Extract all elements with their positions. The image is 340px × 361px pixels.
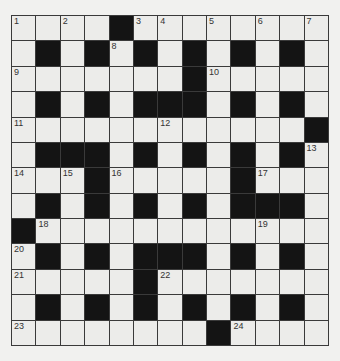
crossword-cell[interactable] [305,321,328,345]
crossword-cell[interactable]: 11 [12,118,35,142]
crossword-cell[interactable] [183,270,206,294]
crossword-cell[interactable] [158,143,181,167]
crossword-cell[interactable] [231,16,254,40]
crossword-cell[interactable] [12,143,35,167]
crossword-cell[interactable] [110,143,133,167]
crossword-cell[interactable] [36,67,59,91]
crossword-cell[interactable] [134,168,157,192]
crossword-cell[interactable] [207,41,230,65]
crossword-cell[interactable] [110,270,133,294]
crossword-cell[interactable] [85,321,108,345]
crossword-cell[interactable] [305,41,328,65]
crossword-cell[interactable]: 16 [110,168,133,192]
crossword-cell[interactable] [305,244,328,268]
crossword-cell[interactable] [134,67,157,91]
crossword-cell[interactable] [158,321,181,345]
crossword-cell[interactable] [61,41,84,65]
crossword-cell[interactable] [158,295,181,319]
crossword-cell[interactable] [305,295,328,319]
crossword-cell[interactable]: 19 [256,219,279,243]
crossword-cell[interactable] [36,321,59,345]
crossword-cell[interactable]: 10 [207,67,230,91]
crossword-cell[interactable] [134,118,157,142]
crossword-cell[interactable] [61,118,84,142]
crossword-cell[interactable] [85,219,108,243]
crossword-cell[interactable] [256,143,279,167]
crossword-cell[interactable] [256,118,279,142]
crossword-cell[interactable] [183,16,206,40]
crossword-cell[interactable] [110,67,133,91]
crossword-cell[interactable]: 2 [61,16,84,40]
crossword-cell[interactable] [256,67,279,91]
crossword-cell[interactable] [305,194,328,218]
crossword-cell[interactable] [305,92,328,116]
crossword-cell[interactable]: 7 [305,16,328,40]
crossword-cell[interactable] [231,67,254,91]
crossword-cell[interactable] [183,168,206,192]
crossword-cell[interactable] [305,67,328,91]
crossword-cell[interactable] [183,118,206,142]
crossword-cell[interactable] [110,244,133,268]
crossword-cell[interactable] [110,92,133,116]
crossword-cell[interactable] [305,270,328,294]
crossword-cell[interactable]: 14 [12,168,35,192]
crossword-cell[interactable] [256,270,279,294]
crossword-cell[interactable] [85,67,108,91]
crossword-cell[interactable] [280,321,303,345]
crossword-cell[interactable] [231,219,254,243]
crossword-cell[interactable] [61,244,84,268]
crossword-cell[interactable] [207,219,230,243]
crossword-cell[interactable] [280,270,303,294]
crossword-cell[interactable] [36,270,59,294]
crossword-cell[interactable]: 22 [158,270,181,294]
crossword-cell[interactable] [61,219,84,243]
crossword-cell[interactable] [256,41,279,65]
crossword-cell[interactable]: 4 [158,16,181,40]
crossword-cell[interactable] [61,67,84,91]
crossword-cell[interactable] [207,143,230,167]
crossword-cell[interactable] [110,194,133,218]
crossword-cell[interactable]: 1 [12,16,35,40]
crossword-cell[interactable] [110,295,133,319]
crossword-cell[interactable]: 12 [158,118,181,142]
crossword-cell[interactable]: 20 [12,244,35,268]
crossword-cell[interactable] [183,321,206,345]
crossword-cell[interactable] [36,118,59,142]
crossword-cell[interactable] [280,16,303,40]
crossword-cell[interactable] [134,219,157,243]
crossword-cell[interactable]: 5 [207,16,230,40]
crossword-cell[interactable] [85,16,108,40]
crossword-cell[interactable] [207,270,230,294]
crossword-cell[interactable] [207,244,230,268]
crossword-cell[interactable] [207,168,230,192]
crossword-cell[interactable] [61,92,84,116]
crossword-cell[interactable] [12,295,35,319]
crossword-cell[interactable] [134,321,157,345]
crossword-cell[interactable]: 9 [12,67,35,91]
crossword-cell[interactable] [256,244,279,268]
crossword-cell[interactable] [158,219,181,243]
crossword-cell[interactable] [158,194,181,218]
crossword-cell[interactable] [61,321,84,345]
crossword-cell[interactable] [12,92,35,116]
crossword-cell[interactable]: 8 [110,41,133,65]
crossword-cell[interactable] [110,321,133,345]
crossword-cell[interactable] [280,67,303,91]
crossword-cell[interactable]: 13 [305,143,328,167]
crossword-cell[interactable] [36,16,59,40]
crossword-cell[interactable] [61,270,84,294]
crossword-cell[interactable] [12,194,35,218]
crossword-cell[interactable] [85,270,108,294]
crossword-cell[interactable] [110,118,133,142]
crossword-cell[interactable] [280,118,303,142]
crossword-cell[interactable] [256,92,279,116]
crossword-cell[interactable] [36,168,59,192]
crossword-cell[interactable] [158,168,181,192]
crossword-cell[interactable] [305,219,328,243]
crossword-cell[interactable] [183,219,206,243]
crossword-cell[interactable]: 6 [256,16,279,40]
crossword-cell[interactable]: 21 [12,270,35,294]
crossword-cell[interactable] [207,92,230,116]
crossword-cell[interactable] [158,41,181,65]
crossword-cell[interactable] [12,41,35,65]
